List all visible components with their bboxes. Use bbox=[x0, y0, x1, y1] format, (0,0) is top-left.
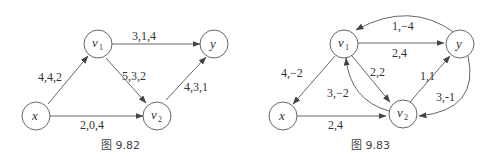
svg-text:1: 1 bbox=[345, 43, 349, 52]
node-y: y bbox=[200, 30, 228, 58]
svg-text:x: x bbox=[278, 108, 285, 123]
edge-label-v2-v1: 3,−2 bbox=[327, 86, 349, 100]
edge-label-v1-y: 2,4 bbox=[392, 46, 407, 60]
edge-label-x-v2: 2,0,4 bbox=[80, 118, 104, 132]
svg-text:y: y bbox=[208, 36, 216, 51]
edge-y-v2 bbox=[419, 56, 470, 116]
edge-label-x-v1: 4,4,2 bbox=[38, 70, 62, 84]
node-y: y bbox=[446, 30, 474, 58]
figure-9-83: 1,−4 2,4 4,−2 2,2 3,−2 1,1 3,-1 2,4 x v … bbox=[269, 16, 474, 152]
edge-label-v1-x: 4,−2 bbox=[281, 66, 303, 80]
svg-text:1: 1 bbox=[99, 43, 103, 52]
edge-label-v2-y: 4,3,1 bbox=[184, 80, 208, 94]
svg-text:v: v bbox=[92, 35, 98, 50]
svg-text:v: v bbox=[151, 107, 157, 122]
edge-v1-v2 bbox=[352, 56, 390, 102]
figure-caption: 图 9.82 bbox=[101, 139, 140, 152]
figure-caption: 图 9.83 bbox=[351, 139, 390, 152]
node-v2: v 2 bbox=[143, 102, 171, 130]
node-v1: v 1 bbox=[330, 30, 358, 58]
edge-label-y-v1: 1,−4 bbox=[392, 19, 414, 33]
diagram-canvas: 4,4,2 3,1,4 5,3,2 4,3,1 2,0,4 x v 1 v 2 … bbox=[0, 0, 491, 164]
svg-text:v: v bbox=[397, 105, 403, 120]
svg-text:2: 2 bbox=[158, 115, 162, 124]
edge-label-v1-v2: 5,3,2 bbox=[122, 69, 146, 83]
edge-label-y-v2: 3,-1 bbox=[436, 90, 455, 104]
node-v1: v 1 bbox=[84, 30, 112, 58]
edge-label-v1-v2: 2,2 bbox=[370, 65, 385, 79]
edge-label-v2-y: 1,1 bbox=[420, 69, 435, 83]
svg-text:v: v bbox=[338, 35, 344, 50]
node-v2: v 2 bbox=[389, 100, 417, 128]
edge-label-v1-y: 3,1,4 bbox=[132, 29, 156, 43]
node-x: x bbox=[269, 102, 297, 130]
svg-text:y: y bbox=[454, 36, 462, 51]
figure-9-82: 4,4,2 3,1,4 5,3,2 4,3,1 2,0,4 x v 1 v 2 … bbox=[22, 29, 228, 152]
edge-label-x-v2: 2,4 bbox=[328, 118, 343, 132]
svg-text:2: 2 bbox=[404, 113, 408, 122]
svg-text:x: x bbox=[31, 108, 38, 123]
node-x: x bbox=[22, 102, 50, 130]
